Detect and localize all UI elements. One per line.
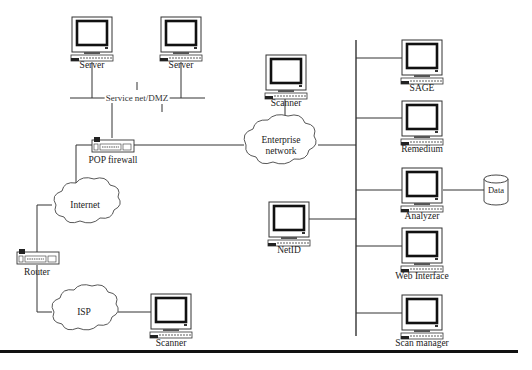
- server1-label: Server: [80, 60, 105, 71]
- pop-firewall-label: POP firewall: [89, 155, 138, 166]
- enterprise-label: Enterprise network: [261, 135, 300, 157]
- netid-icon: [268, 202, 310, 246]
- bottom-rule: [0, 350, 518, 353]
- firewall-icon: [92, 137, 134, 152]
- server2-icon: [160, 17, 202, 61]
- scan-manager-icon: [401, 295, 443, 339]
- scanner-bottom-icon: [150, 294, 192, 338]
- dmz-bus-label: Service net/DMZ: [105, 93, 170, 103]
- router-label: Router: [24, 267, 50, 278]
- sage-icon: [401, 40, 443, 84]
- scanner-bottom-label: Scanner: [156, 338, 187, 349]
- web-interface-label: Web Interface: [395, 271, 448, 282]
- analyzer-label: Analyzer: [405, 211, 440, 222]
- router-icon: [17, 249, 59, 264]
- data-label: Data: [488, 185, 504, 196]
- server1-icon: [71, 17, 113, 61]
- server2-label: Server: [169, 60, 194, 71]
- internet-label: Internet: [70, 200, 100, 211]
- scanner-top-icon: [265, 55, 307, 99]
- remedium-label: Remedium: [401, 144, 443, 155]
- netid-label: NetID: [277, 245, 301, 256]
- scanner-top-label: Scanner: [271, 98, 302, 109]
- isp-label: ISP: [77, 307, 91, 318]
- remedium-icon: [401, 101, 443, 145]
- web-interface-icon: [401, 228, 443, 272]
- sage-label: SAGE: [410, 83, 435, 94]
- analyzer-icon: [401, 168, 443, 212]
- scan-manager-label: Scan manager: [395, 338, 449, 349]
